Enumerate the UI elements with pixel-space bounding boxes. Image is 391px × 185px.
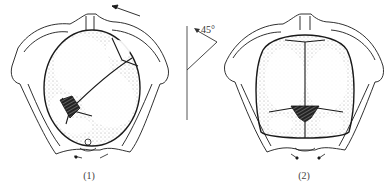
pelvis-fetal-head-1-illustration [0,0,180,185]
panel-2-caption: (2) [289,170,319,181]
angle-label: 45° [201,24,215,35]
panel-2-diagram: (2) [215,0,391,185]
pelvis-fetal-head-2-illustration [215,0,391,185]
rotation-indicator: 45° [180,0,220,185]
panel-1-diagram: (1) [0,0,180,185]
panel-1-caption: (1) [74,170,104,181]
